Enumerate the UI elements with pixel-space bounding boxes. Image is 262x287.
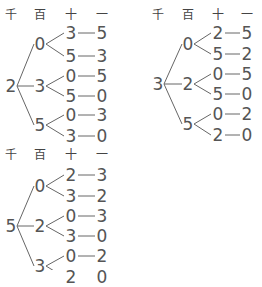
header-hundreds: 百	[34, 9, 46, 21]
tens-digit: 0	[213, 106, 224, 123]
tens-digit: 2	[213, 127, 224, 144]
branch-line	[46, 186, 64, 196]
header-thousands: 千	[152, 9, 164, 21]
thousands-digit: 2	[6, 78, 17, 95]
branch-line	[46, 256, 64, 266]
branch-line	[164, 44, 182, 84]
branch-line	[46, 266, 64, 270]
ones-digit: 0	[242, 86, 253, 103]
ones-digit: 3	[97, 107, 108, 124]
ones-digit: 0	[97, 269, 108, 286]
header-hundreds: 百	[182, 9, 194, 21]
tens-digit: 0	[66, 248, 77, 265]
ones-digit: 5	[97, 68, 108, 85]
tens-digit: 5	[213, 86, 224, 103]
branch-line	[46, 76, 64, 86]
tens-digit: 3	[66, 228, 77, 245]
hundreds-digit: 0	[35, 36, 46, 53]
header-ones: 一	[96, 9, 108, 21]
tens-digit: 2	[213, 25, 224, 42]
tens-digit: 0	[66, 68, 77, 85]
ones-digit: 0	[97, 88, 108, 105]
branch-line	[46, 44, 64, 56]
thousands-digit: 5	[6, 218, 17, 235]
header-ones: 一	[96, 149, 108, 161]
tens-digit: 5	[66, 88, 77, 105]
ones-digit: 3	[97, 167, 108, 184]
tens-digit: 5	[213, 46, 224, 63]
branch-line	[194, 84, 211, 94]
hundreds-digit: 5	[35, 117, 46, 134]
ones-digit: 2	[242, 46, 253, 63]
ones-digit: 5	[242, 66, 253, 83]
hundreds-digit: 0	[183, 36, 194, 53]
branch-line	[46, 216, 64, 226]
branch-line	[46, 115, 64, 125]
header-tens: 十	[212, 9, 224, 21]
tens-digit: 3	[66, 128, 77, 145]
tens-digit: 3	[66, 188, 77, 205]
branch-line	[194, 124, 211, 135]
branch-line	[17, 226, 34, 266]
tens-digit: 0	[66, 107, 77, 124]
hundreds-digit: 3	[35, 258, 46, 275]
tens-digit: 0	[213, 66, 224, 83]
hundreds-digit: 2	[35, 218, 46, 235]
branch-line	[46, 125, 64, 136]
header-ones: 一	[241, 9, 253, 21]
branch-line	[194, 33, 211, 44]
ones-digit: 3	[97, 208, 108, 225]
header-thousands: 千	[5, 149, 17, 161]
branch-line	[17, 86, 34, 125]
ones-digit: 0	[97, 228, 108, 245]
header-hundreds: 百	[34, 149, 46, 161]
ones-digit: 5	[242, 25, 253, 42]
branch-line	[46, 86, 64, 96]
ones-digit: 2	[97, 248, 108, 265]
branch-line	[17, 186, 34, 226]
header-thousands: 千	[5, 9, 17, 21]
hundreds-digit: 5	[183, 116, 194, 133]
ones-digit: 5	[97, 25, 108, 42]
thousands-digit: 3	[153, 76, 164, 93]
hundreds-digit: 3	[35, 78, 46, 95]
branch-line	[194, 74, 211, 84]
branch-line	[194, 44, 211, 54]
tens-digit: 3	[66, 25, 77, 42]
branch-line	[46, 175, 64, 186]
ones-digit: 3	[97, 48, 108, 65]
ones-digit: 2	[97, 188, 108, 205]
branch-line	[164, 84, 182, 124]
tens-digit: 5	[66, 48, 77, 65]
header-tens: 十	[65, 149, 77, 161]
tens-digit: 0	[66, 208, 77, 225]
tens-digit: 2	[66, 167, 77, 184]
ones-digit: 0	[97, 128, 108, 145]
header-tens: 十	[65, 9, 77, 21]
ones-digit: 0	[242, 127, 253, 144]
branch-line	[46, 226, 64, 236]
hundreds-digit: 2	[183, 76, 194, 93]
ones-digit: 2	[242, 106, 253, 123]
branch-line	[17, 44, 34, 86]
hundreds-digit: 0	[35, 178, 46, 195]
branch-line	[46, 33, 64, 44]
branch-line	[194, 114, 211, 124]
tens-digit: 2	[66, 269, 77, 286]
